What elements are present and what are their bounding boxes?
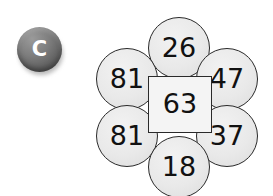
petal-lower-right-value: 37 — [210, 122, 244, 149]
center-square-value: 63 — [163, 90, 197, 117]
center-square: 63 — [148, 76, 212, 133]
petal-lower-left-value: 81 — [110, 122, 144, 149]
petal-upper-right-value: 47 — [210, 65, 244, 92]
petal-top-value: 26 — [162, 34, 196, 61]
petal-upper-left-value: 81 — [110, 65, 144, 92]
petal-bottom-value: 18 — [162, 153, 196, 180]
petal-number-diagram: 26 81 47 81 37 18 63 — [0, 0, 273, 196]
screenshot-canvas: C 26 81 47 81 37 18 63 — [0, 0, 273, 196]
petal-bottom: 18 — [148, 136, 210, 196]
